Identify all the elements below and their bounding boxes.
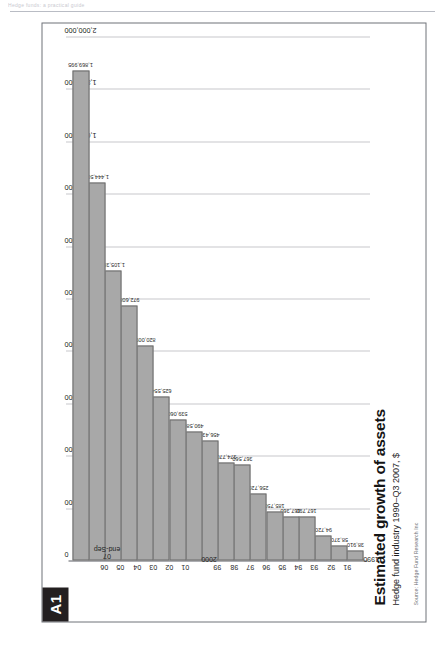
bar-value-label: 58,370 xyxy=(330,536,347,542)
category-label: 03 xyxy=(149,564,157,571)
bar-row: 456,43099 xyxy=(201,38,218,562)
bar-value-label: 256,720 xyxy=(248,484,268,490)
bar xyxy=(217,462,234,560)
bar-row: 972,60804 xyxy=(120,38,137,562)
bar-row: 58,37091 xyxy=(330,38,347,562)
axis-tick-label: 2,000,000 xyxy=(64,26,96,35)
bar xyxy=(88,182,105,560)
bar xyxy=(249,493,266,560)
bar xyxy=(185,432,202,561)
bar-row: 367,56097 xyxy=(233,38,250,562)
bar-row: 256,72096 xyxy=(249,38,266,562)
bar xyxy=(201,441,218,561)
category-label: 02 xyxy=(165,564,173,571)
plot-area: 0200,000400,000600,000800,0001,000,0001,… xyxy=(72,38,363,562)
bar-row: 1,444,50806 xyxy=(88,38,105,562)
bar-row: 1,869,99507end-Sep xyxy=(72,38,89,562)
bar-row: 1,105,38505 xyxy=(104,38,121,562)
category-label: 95 xyxy=(278,564,286,571)
category-label: 1990 xyxy=(363,556,379,563)
category-label: 05 xyxy=(116,564,124,571)
category-label: 2000 xyxy=(201,556,217,563)
bar xyxy=(266,512,283,561)
bar xyxy=(120,306,137,561)
bar-value-label: 972,608 xyxy=(118,297,138,303)
figure-badge: A1 xyxy=(42,588,68,622)
bar-row: 490,5802000 xyxy=(185,38,202,562)
bar-value-label: 94,720 xyxy=(314,527,331,533)
category-label: 01 xyxy=(181,564,189,571)
bar-value-label: 820,009 xyxy=(135,337,155,343)
axis-tick-label: 0 xyxy=(64,550,68,559)
bar-row: 185,75095 xyxy=(266,38,283,562)
category-label: 94 xyxy=(294,564,302,571)
bar xyxy=(104,271,121,561)
category-label: 04 xyxy=(132,564,140,571)
bar-row: 539,06001 xyxy=(169,38,186,562)
bar xyxy=(233,464,250,560)
bar xyxy=(169,419,186,560)
bar xyxy=(152,397,169,561)
figure-panel: A1 Estimated growth of assets Hedge fund… xyxy=(41,23,426,623)
bar-value-label: 38,910 xyxy=(346,541,363,547)
bar-value-label: 625,554 xyxy=(151,388,171,394)
bar xyxy=(314,536,331,561)
bar-row: 167,79093 xyxy=(298,38,315,562)
bar-value-label: 374,770 xyxy=(215,453,235,459)
category-label: 96 xyxy=(262,564,270,571)
header-rule xyxy=(10,11,435,12)
rotated-page-container: A1 Estimated growth of assets Hedge fund… xyxy=(41,23,426,623)
bar xyxy=(298,517,315,561)
bar-value-label: 456,430 xyxy=(199,432,219,438)
chart-subtitle: Hedge fund industry 1990–Q3 2007, $ xyxy=(391,276,401,606)
bar-value-label: 490,580 xyxy=(183,423,203,429)
bar xyxy=(330,545,347,560)
bar xyxy=(136,346,153,561)
bar xyxy=(72,71,89,561)
source-note: Source: Hedge Fund Research Inc xyxy=(412,523,418,606)
bar xyxy=(282,517,299,561)
category-label: 07end-Sep xyxy=(93,545,119,560)
bar-row: 167,36094 xyxy=(282,38,299,562)
bar-row: 94,72092 xyxy=(314,38,331,562)
category-label: 98 xyxy=(229,564,237,571)
bar-value-label: 185,750 xyxy=(264,503,284,509)
bar-row: 374,77098 xyxy=(217,38,234,562)
bar-value-label: 539,060 xyxy=(167,410,187,416)
category-label: 91 xyxy=(343,564,351,571)
category-label: 97 xyxy=(246,564,254,571)
bar-value-label: 1,869,995 xyxy=(68,62,93,68)
bar xyxy=(346,550,363,560)
category-label: 92 xyxy=(326,564,334,571)
bar-row: 625,55402 xyxy=(152,38,169,562)
bar-row: 38,9101990 xyxy=(346,38,363,562)
category-label: 93 xyxy=(310,564,318,571)
category-label: 06 xyxy=(100,564,108,571)
category-label: 99 xyxy=(213,564,221,571)
bar-value-label: 167,360 xyxy=(280,508,300,514)
